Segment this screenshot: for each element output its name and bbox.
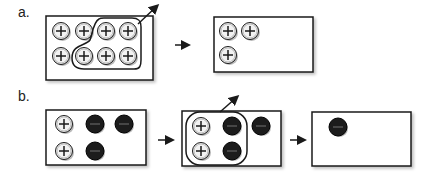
charge-diagram [0,0,428,195]
negative-charge-icon [86,142,105,161]
negative-charge-icon [329,118,348,137]
negative-charge-icon [115,115,134,134]
exit-arrow-b [220,97,237,112]
negative-charge-icon [223,117,242,136]
container-box-b3 [312,112,411,166]
negative-charge-icon [86,115,105,134]
negative-charge-icon [252,117,271,136]
negative-charge-icon [223,142,242,161]
